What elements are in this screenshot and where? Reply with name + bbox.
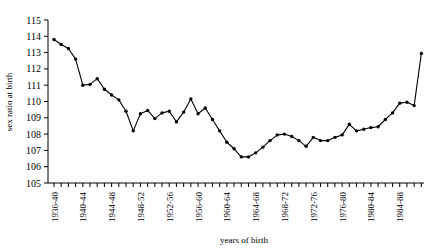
data-point: [283, 132, 286, 135]
data-point: [232, 147, 235, 150]
data-point: [297, 139, 300, 142]
data-point: [240, 155, 243, 158]
data-point: [420, 52, 423, 55]
data-point: [117, 98, 120, 101]
x-tick-label: 1936-40: [50, 192, 60, 222]
x-tick-label: 1940-44: [78, 192, 88, 222]
data-point: [189, 97, 192, 100]
data-point: [319, 139, 322, 142]
line-chart: 105106107108109110111112113114115 1936-4…: [0, 0, 432, 248]
y-tick-label: 108: [26, 129, 41, 140]
data-point: [60, 43, 63, 46]
data-point: [312, 136, 315, 139]
data-point: [369, 126, 372, 129]
x-tick-label: 1944-48: [107, 192, 117, 222]
data-point: [412, 104, 415, 107]
data-point: [52, 38, 55, 41]
y-tick-label: 115: [26, 15, 41, 26]
data-point: [340, 133, 343, 136]
y-tick-label: 105: [26, 178, 41, 189]
data-point: [405, 101, 408, 104]
data-point: [168, 110, 171, 113]
data-point: [225, 141, 228, 144]
x-tick-label: 1976-80: [338, 192, 348, 222]
data-point: [304, 145, 307, 148]
data-point: [391, 111, 394, 114]
data-point: [254, 151, 257, 154]
data-point: [261, 145, 264, 148]
data-point: [376, 125, 379, 128]
data-series: [52, 38, 423, 159]
y-tick-label: 112: [26, 63, 41, 74]
data-point: [103, 88, 106, 91]
y-tick-label: 114: [26, 31, 41, 42]
y-tick-label: 107: [26, 145, 41, 156]
x-tick-label: 1980-84: [366, 192, 376, 222]
x-tick-label: 1964-68: [251, 192, 261, 222]
data-point: [67, 47, 70, 50]
data-point: [196, 112, 199, 115]
data-point: [160, 111, 163, 114]
data-point: [362, 128, 365, 131]
y-axis: 105106107108109110111112113114115: [26, 15, 48, 189]
data-point: [326, 139, 329, 142]
data-point: [182, 110, 185, 113]
y-tick-label: 110: [26, 96, 41, 107]
data-point: [81, 84, 84, 87]
data-point: [211, 118, 214, 121]
data-point: [153, 117, 156, 120]
data-point: [348, 123, 351, 126]
data-point: [96, 77, 99, 80]
chart-figure: 105106107108109110111112113114115 1936-4…: [0, 0, 432, 248]
x-axis: 1936-401940-441944-481948-521952-561956-…: [48, 183, 424, 222]
data-point: [74, 57, 77, 60]
series-line: [54, 40, 421, 157]
data-point: [139, 112, 142, 115]
data-point: [175, 120, 178, 123]
data-point: [124, 110, 127, 113]
y-tick-label: 106: [26, 161, 41, 172]
x-tick-label: 1960-64: [222, 192, 232, 222]
y-tick-label: 109: [26, 112, 41, 123]
data-point: [290, 135, 293, 138]
data-point: [355, 129, 358, 132]
data-point: [88, 83, 91, 86]
y-tick-label: 111: [27, 80, 41, 91]
x-tick-label: 1948-52: [136, 192, 146, 222]
data-point: [132, 129, 135, 132]
data-point: [398, 101, 401, 104]
x-tick-label: 1956-60: [194, 192, 204, 222]
x-tick-label: 1972-76: [309, 192, 319, 222]
data-point: [218, 129, 221, 132]
x-axis-title: years of birth: [220, 235, 268, 245]
x-tick-label: 1968-72: [280, 192, 290, 222]
data-point: [204, 106, 207, 109]
data-point: [333, 136, 336, 139]
x-tick-label: 1984-88: [395, 192, 405, 222]
y-tick-label: 113: [26, 47, 41, 58]
y-axis-title: sex ratio at birth: [4, 72, 14, 131]
data-point: [247, 155, 250, 158]
data-point: [384, 118, 387, 121]
data-point: [276, 133, 279, 136]
x-tick-label: 1952-56: [165, 192, 175, 222]
data-point: [146, 109, 149, 112]
data-point: [110, 93, 113, 96]
data-point: [268, 139, 271, 142]
